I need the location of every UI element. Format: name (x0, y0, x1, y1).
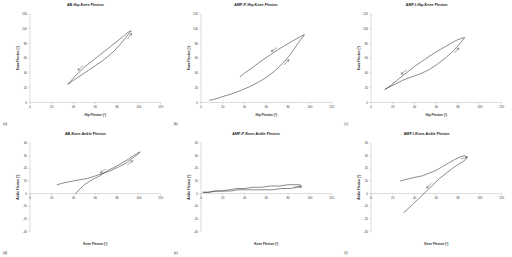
y-axis-title: Ankle Flexion (°) (16, 174, 20, 199)
plot-area: 020406080100120-30-20-10010203040Knee Fl… (0, 129, 171, 257)
y-tick-label: 20 (365, 86, 369, 90)
y-tick-label: 10 (194, 179, 198, 183)
y-tick-label: -30 (364, 229, 369, 233)
data-curve (401, 155, 467, 212)
x-tick-label: 80 (457, 105, 461, 109)
y-tick-label: 80 (365, 42, 369, 46)
x-tick-label: 0 (29, 195, 31, 199)
data-curve (68, 31, 131, 84)
panel-letter: (c) (344, 123, 348, 126)
y-tick-label: 0 (367, 101, 369, 105)
panel-title: AMP-I-Hip-Knee Flexion (341, 4, 512, 8)
y-tick-label: 0 (367, 191, 369, 195)
y-tick-label: 30 (194, 153, 198, 157)
x-tick-label: 20 (50, 195, 54, 199)
panel-letter: (a) (3, 123, 7, 126)
y-tick-label: 100 (22, 27, 27, 31)
x-tick-label: 60 (264, 195, 268, 199)
y-tick-label: 100 (193, 27, 198, 31)
x-tick-label: 100 (307, 105, 312, 109)
plot-area: 020406080100120020406080100120Hip Flexio… (341, 0, 512, 129)
y-tick-label: -30 (23, 229, 28, 233)
x-tick-label: 60 (264, 105, 268, 109)
x-tick-label: 20 (221, 105, 225, 109)
x-tick-label: 0 (370, 105, 372, 109)
x-axis-title: Hip Flexion (°) (426, 113, 447, 117)
y-axis-title: Knee Flexion (°) (187, 46, 191, 70)
y-tick-label: -20 (364, 216, 369, 220)
x-tick-label: 80 (115, 195, 119, 199)
y-tick-label: 20 (194, 86, 198, 90)
data-curve (385, 38, 464, 90)
x-tick-label: 120 (499, 105, 504, 109)
x-tick-label: 100 (478, 195, 483, 199)
x-tick-label: 0 (200, 195, 202, 199)
y-tick-label: 120 (363, 12, 368, 16)
x-tick-label: 100 (136, 195, 141, 199)
y-tick-label: -10 (23, 204, 28, 208)
x-axis-title: Hip Flexion (°) (85, 113, 106, 117)
x-tick-label: 100 (478, 105, 483, 109)
y-tick-label: 40 (24, 71, 28, 75)
plot-area: 020406080100120020406080100120Hip Flexio… (0, 0, 171, 129)
x-tick-label: 0 (200, 105, 202, 109)
y-tick-label: 30 (24, 153, 28, 157)
x-tick-label: 80 (115, 105, 119, 109)
y-tick-label: 80 (194, 42, 198, 46)
chart-panel-d: AB-Knee-Ankle Flexion(d)020406080100120-… (0, 129, 171, 257)
panel-title: AB-Hip-Knee Flexion (0, 4, 171, 8)
chart-panel-f: AMP-I-Knee-Ankle Flexion(f)0204060801001… (341, 129, 512, 257)
panel-title: AMP-I-Knee-Ankle Flexion (341, 133, 512, 137)
y-tick-label: -20 (23, 216, 28, 220)
chart-panel-a: AB-Hip-Knee Flexion(a)020406080100120020… (0, 0, 171, 129)
y-tick-label: 20 (194, 166, 198, 170)
x-tick-label: 40 (243, 105, 247, 109)
plot-area: 020406080100120-30-20-10010203040Knee Fl… (171, 129, 342, 257)
plot-area: 020406080100120-30-20-10010203040Knee Fl… (341, 129, 512, 257)
y-tick-label: 60 (194, 56, 198, 60)
y-tick-label: 30 (365, 153, 369, 157)
y-tick-label: -10 (364, 204, 369, 208)
panel-title: AMP-P-Hip-Knee Flexion (171, 4, 342, 8)
x-axis-title: Knee Flexion (°) (254, 242, 278, 246)
y-tick-label: 10 (24, 179, 28, 183)
y-tick-label: 40 (24, 141, 28, 145)
plot-area: 020406080100120020406080100120Hip Flexio… (171, 0, 342, 129)
x-tick-label: 120 (499, 195, 504, 199)
x-tick-label: 80 (457, 195, 461, 199)
y-tick-label: 40 (365, 71, 369, 75)
x-tick-label: 120 (158, 105, 163, 109)
x-tick-label: 60 (94, 195, 98, 199)
y-tick-label: 10 (365, 179, 369, 183)
data-curve (203, 184, 301, 192)
data-curve (57, 151, 140, 193)
figure-canvas: AB-Hip-Knee Flexion(a)020406080100120020… (0, 0, 512, 257)
x-tick-label: 100 (136, 105, 141, 109)
x-axis-title: Hip Flexion (°) (255, 113, 276, 117)
x-axis-title: Knee Flexion (°) (425, 242, 449, 246)
x-tick-label: 60 (94, 105, 98, 109)
x-tick-label: 20 (391, 105, 395, 109)
y-tick-label: 20 (24, 166, 28, 170)
panel-letter: (f) (344, 252, 347, 255)
y-axis-title: Ankle Flexion (°) (357, 174, 361, 199)
y-tick-label: 60 (24, 56, 28, 60)
x-tick-label: 40 (243, 195, 247, 199)
x-tick-label: 80 (286, 195, 290, 199)
y-tick-label: 0 (196, 191, 198, 195)
chart-panel-b: AMP-P-Hip-Knee Flexion(b)020406080100120… (171, 0, 342, 129)
y-tick-label: 0 (196, 101, 198, 105)
y-tick-label: 40 (365, 141, 369, 145)
y-tick-label: 40 (194, 141, 198, 145)
x-tick-label: 40 (413, 195, 417, 199)
x-tick-label: 80 (286, 105, 290, 109)
x-tick-label: 120 (329, 105, 334, 109)
y-axis-title: Knee Flexion (°) (357, 46, 361, 70)
y-tick-label: 0 (25, 101, 27, 105)
panel-title: AMP-P-Knee-Ankle Flexion (171, 133, 342, 137)
x-axis-title: Knee Flexion (°) (83, 242, 107, 246)
chart-panel-e: AMP-P-Knee-Ankle Flexion(e)0204060801001… (171, 129, 342, 257)
y-tick-label: -20 (193, 216, 198, 220)
panel-title: AB-Knee-Ankle Flexion (0, 133, 171, 137)
y-tick-label: 120 (22, 12, 27, 16)
